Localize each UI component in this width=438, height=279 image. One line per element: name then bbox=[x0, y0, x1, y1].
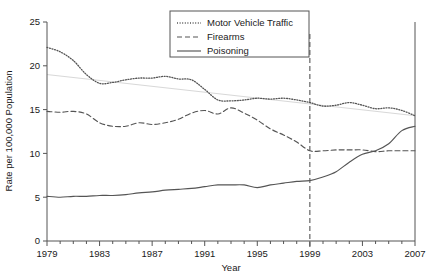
y-axis-ticks: 0510152025 bbox=[29, 16, 47, 246]
line-chart: 0510152025 19791983198719911995199920032… bbox=[0, 0, 438, 279]
y-tick-label: 0 bbox=[35, 235, 40, 246]
y-tick-label: 20 bbox=[29, 60, 40, 71]
legend-label: Firearms bbox=[207, 31, 245, 42]
y-tick-label: 10 bbox=[29, 148, 40, 159]
x-tick-label: 1999 bbox=[299, 248, 320, 259]
y-tick-label: 25 bbox=[29, 16, 40, 27]
x-tick-label: 1991 bbox=[194, 248, 215, 259]
y-axis-title: Rate per 100,000 Population bbox=[3, 71, 14, 192]
y-tick-label: 15 bbox=[29, 104, 40, 115]
x-tick-label: 2007 bbox=[404, 248, 425, 259]
x-tick-label: 1995 bbox=[247, 248, 268, 259]
legend-label: Poisoning bbox=[207, 45, 249, 56]
legend-label: Motor Vehicle Traffic bbox=[207, 17, 293, 28]
x-tick-label: 1983 bbox=[89, 248, 110, 259]
chart-container: 0510152025 19791983198719911995199920032… bbox=[0, 0, 438, 279]
x-tick-label: 1987 bbox=[142, 248, 163, 259]
y-tick-label: 5 bbox=[35, 192, 40, 203]
x-tick-label: 1979 bbox=[36, 248, 57, 259]
chart-legend: Motor Vehicle TrafficFirearmsPoisoning bbox=[170, 11, 309, 57]
x-axis-ticks: 19791983198719911995199920032007 bbox=[36, 241, 425, 259]
x-tick-label: 2003 bbox=[352, 248, 373, 259]
x-axis-title: Year bbox=[221, 262, 240, 273]
